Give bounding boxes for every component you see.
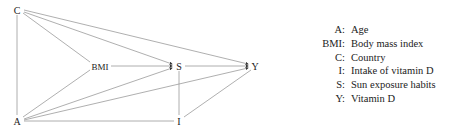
legend-key: I: <box>318 64 345 78</box>
node-BMI: BMI <box>91 62 108 72</box>
edge-C-S <box>24 12 172 64</box>
legend-value: Intake of vitamin D <box>345 64 434 78</box>
legend-row-country: C: Country <box>318 51 436 65</box>
edge-C-BMI <box>23 13 90 62</box>
edge-A-Y <box>24 68 248 120</box>
legend-row-bmi: BMI: Body mass index <box>318 37 436 51</box>
legend-key: A: <box>318 23 345 37</box>
legend-key: S: <box>318 78 345 92</box>
legend-row-age: A: Age <box>318 23 436 37</box>
legend-key: Y: <box>318 92 345 106</box>
node-S: S <box>176 61 182 72</box>
legend-value: Vitamin D <box>345 92 395 106</box>
legend: A: Age BMI: Body mass index C: Country I… <box>318 23 436 106</box>
node-I: I <box>177 116 180 127</box>
legend-value: Sun exposure habits <box>345 78 436 92</box>
node-A: A <box>13 116 21 127</box>
legend-value: Body mass index <box>345 37 423 51</box>
edge-I-Y <box>184 70 251 117</box>
edge-A-S <box>24 68 172 119</box>
legend-row-intake: I: Intake of vitamin D <box>318 64 436 78</box>
edge-A-BMI <box>23 70 90 117</box>
legend-value: Age <box>345 23 369 37</box>
legend-row-sun: S: Sun exposure habits <box>318 78 436 92</box>
legend-value: Country <box>345 51 385 65</box>
node-C: C <box>14 5 21 16</box>
legend-key: C: <box>318 51 345 65</box>
node-Y: Y <box>251 61 258 72</box>
legend-row-vitd: Y: Vitamin D <box>318 92 436 106</box>
legend-key: BMI: <box>318 37 345 51</box>
edge-C-Y <box>24 10 248 64</box>
